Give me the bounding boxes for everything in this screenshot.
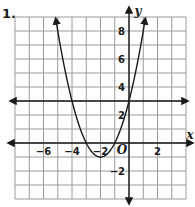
x-tick-label: −4 xyxy=(64,146,79,157)
x-tick-label: 2 xyxy=(154,146,161,157)
x-tick-label: −6 xyxy=(36,146,51,157)
y-axis-label: y xyxy=(134,4,143,18)
y-tick-label: −2 xyxy=(110,166,125,177)
y-tick-label: 8 xyxy=(118,26,125,37)
coordinate-graph: xyO−6−4−228642−2 xyxy=(0,0,195,207)
origin-label: O xyxy=(117,143,128,157)
y-tick-label: 4 xyxy=(118,82,125,93)
y-tick-label: 6 xyxy=(118,54,125,65)
x-axis-label: x xyxy=(185,128,194,142)
